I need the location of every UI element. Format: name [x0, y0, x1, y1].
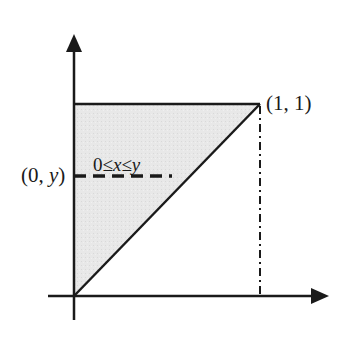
left-point-label: (0, y): [21, 165, 65, 186]
region-diagram: (1, 1) (0, y) 0≤x≤y: [0, 0, 351, 355]
corner-point-label: (1, 1): [266, 93, 312, 114]
x-axis-arrow-icon: [311, 288, 329, 304]
left-point-open: (0,: [21, 163, 49, 187]
inequality-part-a: 0≤: [93, 154, 113, 175]
y-axis-arrow-icon: [66, 34, 82, 52]
left-point-close: ): [58, 163, 65, 187]
inequality-part-b: ≤: [121, 154, 131, 175]
inequality-label: 0≤x≤y: [93, 155, 140, 174]
corner-point-text: (1, 1): [266, 91, 312, 115]
inequality-var-y: y: [132, 154, 140, 175]
left-point-var: y: [49, 163, 58, 187]
